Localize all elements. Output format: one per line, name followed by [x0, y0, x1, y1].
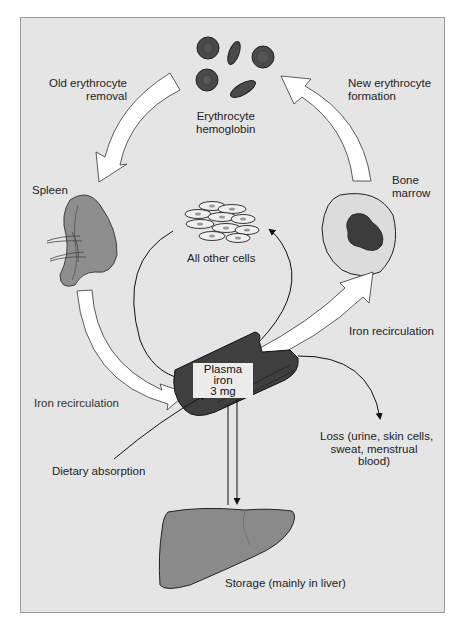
loss-label: Loss (urine, skin cells, sweat, menstrua… [320, 430, 428, 468]
new-formation-line1: New erythrocyte [348, 77, 431, 90]
erythrocytes-icon [196, 37, 274, 101]
left-recirculation-arrow [77, 290, 187, 410]
spleen-label: Spleen [32, 184, 68, 197]
new-formation-line2: formation [348, 90, 431, 103]
bone-marrow-icon [322, 194, 396, 276]
loss-line2: sweat, menstrual [320, 443, 428, 456]
bone-marrow-label: Bone marrow [392, 174, 430, 199]
other-cells-label: All other cells [187, 252, 255, 265]
erythrocyte-label-line2: hemoglobin [196, 123, 255, 136]
old-removal-line1: Old erythrocyte [49, 77, 127, 90]
bone-marrow-line1: Bone [392, 174, 430, 187]
plasma-iron-line1: Plasma iron [193, 364, 253, 386]
loss-line3: blood) [320, 455, 428, 468]
old-removal-line2: removal [49, 90, 127, 103]
plasma-iron-line2: 3 mg [193, 386, 253, 397]
spleen-icon [47, 195, 117, 286]
left-recirculation-label: Iron recirculation [34, 397, 119, 410]
plasma-iron-label: Plasma iron 3 mg [193, 363, 253, 398]
old-removal-label: Old erythrocyte removal [49, 77, 127, 102]
erythrocyte-label: Erythrocyte hemoglobin [196, 110, 255, 135]
right-recirculation-arrow [253, 272, 373, 364]
other-cells-icon [185, 202, 259, 243]
bone-marrow-line2: marrow [392, 187, 430, 200]
new-formation-label: New erythrocyte formation [348, 77, 431, 102]
erythrocyte-label-line1: Erythrocyte [196, 110, 255, 123]
loss-line1: Loss (urine, skin cells, [320, 430, 428, 443]
loss-arrow [298, 356, 380, 418]
right-recirculation-label: Iron recirculation [349, 325, 434, 338]
to-cells-from-plasma-line [258, 230, 292, 343]
to-plasma-from-cells-line [134, 231, 182, 379]
liver-storage-label: Storage (mainly in liver) [225, 577, 346, 590]
dietary-absorption-label: Dietary absorption [52, 465, 145, 478]
